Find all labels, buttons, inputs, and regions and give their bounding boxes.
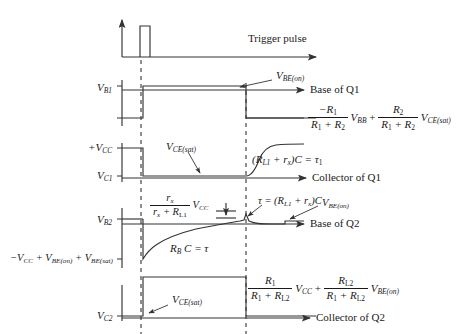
vc1-axis-label: VC1 — [97, 170, 112, 183]
collector-of-q2-text: Collector of Q2 — [316, 311, 385, 323]
vb1-fraction-1: −R1 R1 + R2 — [308, 103, 348, 133]
vc2-f2-num: RL2 — [324, 274, 368, 288]
trace-base-q1 — [122, 80, 316, 126]
vce-sat-q1-label: VCE(sat) — [166, 141, 196, 154]
vc1-symbol: V — [97, 169, 104, 181]
vb1-symbol: V — [97, 81, 104, 93]
vc2-fraction-1: R1 R1 + RL2 — [248, 274, 292, 304]
base-of-q2-text: Base of Q2 — [310, 217, 360, 229]
vc2-vcc: V — [295, 282, 302, 294]
vb1-waveform — [122, 86, 316, 118]
vc2-f1-den: R1 + RL2 — [248, 288, 292, 303]
vbe-on-q2-label: VBE(on) — [322, 198, 349, 210]
vb1-low-formula: −R1 R1 + R2 VBB + R2 R1 + R2 VCE(sat) — [308, 103, 451, 133]
vce-sat-q1-symbol: V — [166, 140, 173, 152]
vb1-vcesat: V — [421, 111, 428, 123]
vc2-f2-den: R1 + RL2 — [324, 288, 368, 303]
tau1-expression: (RL1 + rx)C = τ1 — [252, 154, 322, 167]
leader-vbe-on-q1 — [240, 80, 272, 87]
vb1-axis-label: VB1 — [97, 82, 112, 95]
vc2-symbol: V — [97, 309, 104, 321]
collector-of-q1-label: Collector of Q1 — [312, 172, 381, 183]
vb1-f1-den: R1 + R2 — [308, 117, 348, 132]
vce-sat-q2-label: VCE(sat) — [172, 294, 202, 307]
vc2-f1-num: R1 — [248, 274, 292, 288]
vb2-fraction: rx rx + RL1 — [150, 192, 190, 219]
vb1-subscript: B1 — [104, 86, 112, 95]
base-of-q2-label: Base of Q2 — [310, 218, 360, 229]
tau-expression-q2: τ = (RL1 + rx)C — [258, 196, 322, 208]
collector-of-q1-text: Collector of Q1 — [312, 171, 381, 183]
vb2-den: rx + RL1 — [150, 205, 190, 219]
vb2-peak-formula: rx rx + RL1 VCC — [150, 192, 209, 219]
trigger-pulse-label: Trigger pulse — [248, 33, 307, 44]
vb1-f1-num: −R1 — [308, 103, 348, 117]
vc2-vbeon: V — [371, 282, 378, 294]
leader-vce-sat-q1 — [188, 152, 200, 173]
vce-sat-q2-symbol: V — [172, 293, 179, 305]
vb2-symbol: V — [97, 213, 104, 225]
vbe-on-q1-symbol: V — [276, 69, 283, 81]
collector-of-q2-label: Collector of Q2 — [316, 312, 385, 323]
vb2-axis-label: VB2 — [97, 214, 112, 227]
vc2-high-formula: R1 R1 + RL2 VCC + RL2 R1 + RL2 VBE(on) — [248, 274, 399, 304]
vb2-waveform — [143, 214, 304, 259]
plus-vcc-symbol: +V — [88, 141, 102, 153]
vc2-fraction-2: RL2 R1 + RL2 — [324, 274, 368, 304]
vbe-on-q1-label: VBE(on) — [276, 70, 304, 83]
vc2-axis-label: VC2 — [97, 310, 112, 323]
base-of-q1-label: Base of Q1 — [310, 84, 360, 95]
plus-vcc-label: +VCC — [88, 142, 112, 155]
vb2-low-expression: −VCC + VBE(on) + VBE(sat) — [10, 253, 113, 265]
vb1-f2-den: R1 + R2 — [378, 117, 418, 132]
rbc-tau-expression: RB C = τ — [170, 243, 208, 256]
base-of-q1-text: Base of Q1 — [310, 83, 360, 95]
trigger-pulse-shape — [140, 26, 150, 57]
vb1-fraction-2: R2 R1 + R2 — [378, 103, 418, 133]
vbe-on-q1-subscript: BE(on) — [283, 74, 305, 83]
vb1-f2-num: R2 — [378, 103, 418, 117]
leader-vce-sat-q2 — [149, 305, 168, 313]
figure-canvas: Trigger pulse VB1 VBE(on) Base of Q1 −R1… — [0, 0, 466, 334]
vb2-num: rx — [150, 192, 190, 205]
